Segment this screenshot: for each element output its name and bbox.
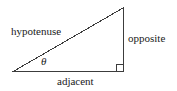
label-angle-theta: θ — [41, 56, 46, 67]
label-opposite: opposite — [128, 33, 165, 44]
label-adjacent: adjacent — [57, 76, 94, 87]
trigonometry-diagram: hypotenuse opposite adjacent θ — [0, 0, 177, 91]
label-hypotenuse: hypotenuse — [11, 26, 61, 37]
triangle-outline — [14, 8, 123, 71]
right-angle-square-icon — [116, 64, 123, 71]
